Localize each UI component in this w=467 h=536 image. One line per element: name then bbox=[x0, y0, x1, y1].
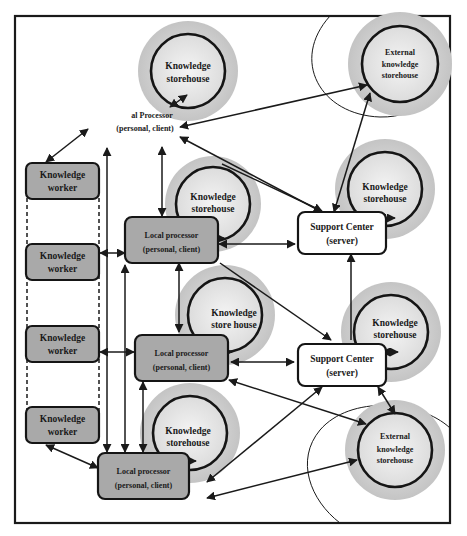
svg-text:(personal, client): (personal, client) bbox=[143, 245, 201, 254]
storehouse-top-label-1: Knowledge bbox=[165, 61, 210, 71]
svg-text:al Processor: al Processor bbox=[131, 111, 173, 120]
storehouse-top-label-2: storehouse bbox=[166, 74, 209, 84]
local-processor-2: Local processor (personal, client) bbox=[135, 335, 228, 381]
svg-text:Support Center: Support Center bbox=[310, 222, 374, 232]
storehouse-2-label-1: Knowledge bbox=[211, 308, 256, 318]
svg-text:worker: worker bbox=[48, 264, 78, 274]
svg-text:Local processor: Local processor bbox=[117, 467, 171, 476]
svg-text:worker: worker bbox=[48, 427, 78, 437]
knowledge-worker-3: Knowledge worker bbox=[26, 326, 99, 362]
support-center-1: Support Center (server) bbox=[298, 212, 386, 254]
storehouse-right-2-label-1: Knowledge bbox=[372, 318, 417, 328]
storehouse-1-label-2: storehouse bbox=[191, 204, 234, 214]
storehouse-right-2-label-2: storehouse bbox=[373, 330, 416, 340]
local-processor-3: Local processor (personal, client) bbox=[98, 453, 189, 499]
svg-text:(personal, client): (personal, client) bbox=[115, 481, 173, 490]
storehouse-top bbox=[138, 21, 238, 121]
svg-text:(personal, client): (personal, client) bbox=[116, 124, 174, 133]
storehouse-2-label-2: store house bbox=[211, 320, 256, 330]
external-bottom-label-2: knowledge bbox=[377, 445, 414, 454]
local-processor-1: Local processor (personal, client) bbox=[125, 217, 218, 263]
svg-text:Knowledge: Knowledge bbox=[40, 333, 85, 343]
storehouse-3-label-1: Knowledge bbox=[165, 426, 210, 436]
knowledge-worker-4: Knowledge worker bbox=[26, 407, 99, 443]
knowledge-network-diagram: Knowledge worker Knowledge worker Knowle… bbox=[0, 0, 467, 536]
external-top-label-1: External bbox=[385, 48, 416, 57]
svg-text:(server): (server) bbox=[326, 368, 358, 379]
svg-text:(server): (server) bbox=[326, 236, 358, 247]
external-top-label-2: knowledge bbox=[382, 60, 419, 69]
external-top-label-3: storehouse bbox=[382, 71, 419, 80]
storehouse-1-label-1: Knowledge bbox=[190, 192, 235, 202]
external-bottom-label-3: storehouse bbox=[377, 456, 414, 465]
storehouse-right-1-label-1: Knowledge bbox=[362, 182, 407, 192]
support-center-2: Support Center (server) bbox=[298, 344, 386, 386]
knowledge-worker-1: Knowledge worker bbox=[26, 163, 99, 199]
knowledge-worker-2: Knowledge worker bbox=[26, 244, 99, 280]
svg-text:Local processor: Local processor bbox=[155, 349, 209, 358]
storehouse-3-label-2: storehouse bbox=[166, 438, 209, 448]
svg-text:Knowledge: Knowledge bbox=[40, 251, 85, 261]
svg-text:Knowledge: Knowledge bbox=[40, 414, 85, 424]
svg-text:Local processor: Local processor bbox=[145, 231, 199, 240]
svg-text:Knowledge: Knowledge bbox=[40, 170, 85, 180]
svg-text:(personal, client): (personal, client) bbox=[153, 363, 211, 372]
svg-text:worker: worker bbox=[48, 346, 78, 356]
external-bottom-label-1: External bbox=[380, 432, 411, 441]
storehouse-right-1-label-2: storehouse bbox=[363, 194, 406, 204]
svg-text:Support Center: Support Center bbox=[310, 354, 374, 364]
svg-text:worker: worker bbox=[48, 183, 78, 193]
